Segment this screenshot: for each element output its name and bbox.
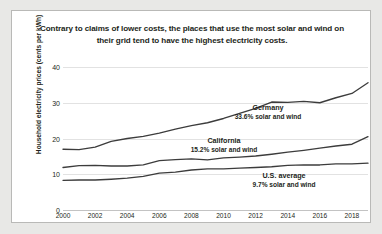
figure-card: Contrary to claims of lower costs, the p…: [11, 10, 371, 223]
series-annotation-germany-share: 33.6% solar and wind: [208, 112, 328, 121]
gridline-0: [63, 210, 368, 211]
chart-title: Contrary to claims of lower costs, the p…: [32, 23, 352, 46]
series-annotation-us-average: U.S. average 9.7% solar and wind: [224, 171, 344, 189]
x-tick-label-2000: 2000: [56, 212, 71, 219]
x-tick-label-2006: 2006: [152, 212, 167, 219]
y-axis-tick-labels: 010203040: [34, 67, 60, 210]
x-axis-tick-labels: 2000200220042006200820102012201420162018: [63, 212, 368, 226]
x-tick-label-2002: 2002: [88, 212, 103, 219]
x-tick-label-2010: 2010: [216, 212, 231, 219]
x-tick-label-2014: 2014: [280, 212, 295, 219]
y-tick-label-10: 10: [38, 171, 60, 178]
x-tick-label-2018: 2018: [345, 212, 360, 219]
x-tick-label-2004: 2004: [120, 212, 135, 219]
series-annotation-california-name: California: [164, 136, 284, 145]
y-tick-label-40: 40: [38, 64, 60, 71]
x-tick-label-2016: 2016: [312, 212, 327, 219]
series-annotation-germany-name: Germany: [208, 103, 328, 112]
series-annotation-us-average-name: U.S. average: [224, 171, 344, 180]
series-annotation-germany: Germany 33.6% solar and wind: [208, 103, 328, 121]
series-annotation-california-share: 15.2% solar and wind: [164, 145, 284, 154]
x-tick-label-2012: 2012: [248, 212, 263, 219]
y-tick-label-20: 20: [38, 135, 60, 142]
y-tick-label-30: 30: [38, 99, 60, 106]
series-annotation-california: California 15.2% solar and wind: [164, 136, 284, 154]
series-annotation-us-average-share: 9.7% solar and wind: [224, 180, 344, 189]
x-tick-label-2008: 2008: [184, 212, 199, 219]
